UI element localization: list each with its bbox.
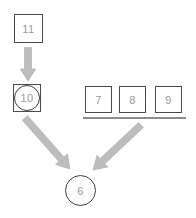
node-10-inscribed-circle: 10 bbox=[14, 85, 40, 111]
arrow-11-to-10 bbox=[20, 48, 36, 82]
arrow-789-to-6 bbox=[93, 122, 143, 170]
group-789-underline bbox=[83, 117, 186, 119]
arrow-10-to-6 bbox=[22, 116, 70, 169]
node-10: 10 bbox=[13, 84, 41, 112]
node-6: 6 bbox=[65, 175, 96, 206]
node-10-label: 10 bbox=[20, 92, 33, 104]
diagram-canvas: 11 10 7 8 9 6 bbox=[0, 0, 196, 218]
node-11: 11 bbox=[14, 14, 43, 43]
node-8: 8 bbox=[119, 86, 146, 113]
node-6-label: 6 bbox=[77, 185, 84, 197]
node-7-label: 7 bbox=[95, 94, 102, 106]
node-8-label: 8 bbox=[129, 94, 136, 106]
node-9: 9 bbox=[155, 86, 182, 113]
node-7: 7 bbox=[85, 86, 112, 113]
node-11-label: 11 bbox=[22, 23, 34, 35]
node-9-label: 9 bbox=[165, 94, 172, 106]
